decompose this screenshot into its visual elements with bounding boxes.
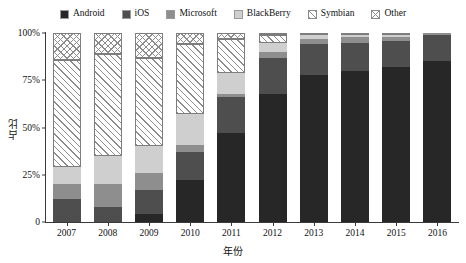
legend-label: Android xyxy=(73,9,105,19)
legend-label: BlackBerry xyxy=(247,9,291,19)
segment-android-2012[interactable] xyxy=(259,94,287,222)
x-tick-mark-2015 xyxy=(396,222,397,226)
segment-microsoft-2009[interactable] xyxy=(135,173,163,190)
legend-label: Symbian xyxy=(321,9,355,19)
segment-other-2007[interactable] xyxy=(53,33,81,59)
plot-area: 025%50%75%100% 2007200820092010201120122… xyxy=(46,33,458,222)
segment-symbian-2009[interactable] xyxy=(135,58,163,147)
x-tick-mark-2013 xyxy=(314,222,315,226)
segment-ios-2015[interactable] xyxy=(382,41,410,67)
x-tick-label-2008: 2008 xyxy=(88,228,128,238)
segment-microsoft-2010[interactable] xyxy=(176,145,204,153)
x-tick-label-2013: 2013 xyxy=(294,228,334,238)
segment-other-2009[interactable] xyxy=(135,33,163,58)
segment-ios-2013[interactable] xyxy=(300,44,328,74)
segment-ios-2011[interactable] xyxy=(217,97,245,133)
x-tick-label-2012: 2012 xyxy=(253,228,293,238)
bar-2014[interactable] xyxy=(341,33,369,222)
legend-item-symbian[interactable]: Symbian xyxy=(308,9,355,19)
x-tick-mark-2016 xyxy=(437,222,438,226)
segment-blackberry-2009[interactable] xyxy=(135,146,163,172)
segment-android-2016[interactable] xyxy=(423,61,451,222)
x-tick-label-2007: 2007 xyxy=(47,228,87,238)
bar-group: 2007200820092010201120122013201420152016 xyxy=(46,33,458,222)
segment-android-2011[interactable] xyxy=(217,133,245,222)
bar-2012[interactable] xyxy=(259,33,287,222)
segment-symbian-2011[interactable] xyxy=(217,39,245,73)
legend-label: Other xyxy=(384,9,406,19)
segment-blackberry-2012[interactable] xyxy=(259,43,287,52)
x-tick-label-2015: 2015 xyxy=(376,228,416,238)
legend-label: Microsoft xyxy=(179,9,216,19)
x-tick-label-2011: 2011 xyxy=(211,228,251,238)
segment-microsoft-2007[interactable] xyxy=(53,184,81,199)
segment-android-2015[interactable] xyxy=(382,67,410,222)
segment-blackberry-2011[interactable] xyxy=(217,73,245,94)
symbian-swatch xyxy=(308,10,317,19)
segment-ios-2014[interactable] xyxy=(341,43,369,71)
segment-ios-2007[interactable] xyxy=(53,199,81,222)
stacked-bar-chart: AndroidiOSMicrosoftBlackBerrySymbianOthe… xyxy=(0,0,466,263)
segment-android-2014[interactable] xyxy=(341,71,369,222)
bar-2016[interactable] xyxy=(423,33,451,222)
segment-android-2009[interactable] xyxy=(135,214,163,222)
segment-ios-2016[interactable] xyxy=(423,35,451,61)
legend-item-ios[interactable]: iOS xyxy=(122,9,150,19)
ios-swatch xyxy=(122,10,131,19)
segment-ios-2010[interactable] xyxy=(176,152,204,180)
x-tick-mark-2008 xyxy=(108,222,109,226)
x-tick-mark-2014 xyxy=(355,222,356,226)
legend-item-blackberry[interactable]: BlackBerry xyxy=(234,9,291,19)
segment-blackberry-2010[interactable] xyxy=(176,114,204,144)
x-tick-mark-2007 xyxy=(67,222,68,226)
segment-symbian-2007[interactable] xyxy=(53,60,81,168)
blackberry-swatch xyxy=(234,10,243,19)
chart-legend: AndroidiOSMicrosoftBlackBerrySymbianOthe… xyxy=(0,6,466,22)
microsoft-swatch xyxy=(166,10,175,19)
legend-item-android[interactable]: Android xyxy=(60,9,105,19)
bar-2008[interactable] xyxy=(94,33,122,222)
segment-other-2010[interactable] xyxy=(176,33,204,44)
bar-2010[interactable] xyxy=(176,33,204,222)
segment-other-2008[interactable] xyxy=(94,33,122,54)
segment-blackberry-2007[interactable] xyxy=(53,167,81,184)
x-tick-mark-2011 xyxy=(231,222,232,226)
x-tick-label-2010: 2010 xyxy=(170,228,210,238)
bar-2015[interactable] xyxy=(382,33,410,222)
legend-label: iOS xyxy=(135,9,150,19)
segment-blackberry-2008[interactable] xyxy=(94,156,122,184)
legend-item-other[interactable]: Other xyxy=(371,9,406,19)
android-swatch xyxy=(60,10,69,19)
bar-2009[interactable] xyxy=(135,33,163,222)
x-tick-label-2016: 2016 xyxy=(417,228,457,238)
segment-ios-2012[interactable] xyxy=(259,58,287,94)
y-axis-title: 占比 xyxy=(6,118,21,140)
segment-android-2010[interactable] xyxy=(176,180,204,222)
segment-android-2013[interactable] xyxy=(300,75,328,222)
x-tick-label-2014: 2014 xyxy=(335,228,375,238)
bar-2007[interactable] xyxy=(53,33,81,222)
bar-2013[interactable] xyxy=(300,33,328,222)
bar-2011[interactable] xyxy=(217,33,245,222)
other-swatch xyxy=(371,10,380,19)
x-tick-mark-2010 xyxy=(190,222,191,226)
legend-item-microsoft[interactable]: Microsoft xyxy=(166,9,216,19)
segment-symbian-2010[interactable] xyxy=(176,44,204,114)
x-tick-mark-2012 xyxy=(273,222,274,226)
x-tick-label-2009: 2009 xyxy=(129,228,169,238)
segment-ios-2008[interactable] xyxy=(94,207,122,222)
x-tick-mark-2009 xyxy=(149,222,150,226)
x-axis-title: 年份 xyxy=(0,243,466,258)
segment-symbian-2012[interactable] xyxy=(259,35,287,43)
segment-symbian-2008[interactable] xyxy=(94,54,122,156)
segment-ios-2009[interactable] xyxy=(135,190,163,215)
segment-microsoft-2008[interactable] xyxy=(94,184,122,207)
